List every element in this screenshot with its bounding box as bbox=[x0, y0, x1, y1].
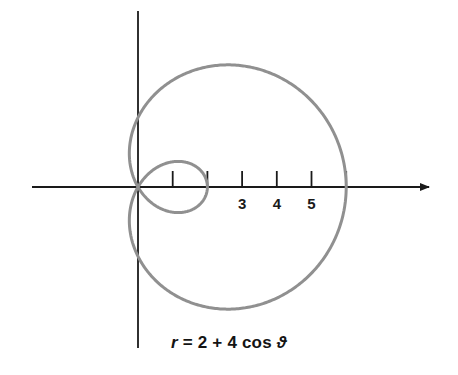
caption-theta-symbol: ϑ bbox=[277, 333, 287, 352]
x-tick-label-3: 3 bbox=[232, 196, 252, 211]
equation-caption: r = 2 + 4 cos ϑ bbox=[0, 333, 458, 353]
caption-equals: = bbox=[178, 333, 198, 352]
x-axis-ticks bbox=[173, 171, 347, 188]
caption-number-2: 2 bbox=[198, 333, 208, 352]
x-tick-label-4: 4 bbox=[267, 196, 287, 211]
caption-number-4: 4 bbox=[227, 333, 237, 352]
caption-plus: + bbox=[207, 333, 227, 352]
plot-canvas bbox=[0, 0, 458, 375]
caption-cos: cos bbox=[237, 333, 277, 352]
caption-variable-r: r bbox=[171, 333, 178, 352]
x-tick-label-5: 5 bbox=[302, 196, 322, 211]
polar-plot-figure: 345 r = 2 + 4 cos ϑ bbox=[0, 0, 458, 375]
